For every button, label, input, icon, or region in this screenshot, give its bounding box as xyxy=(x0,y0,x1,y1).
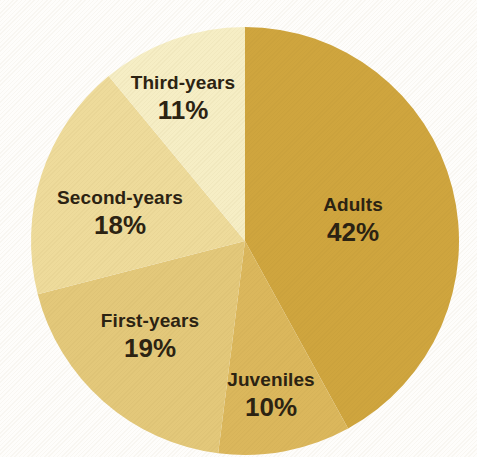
pie-chart: Adults42%Juveniles10%First-years19%Secon… xyxy=(0,0,477,457)
pie-chart-canvas xyxy=(0,0,477,457)
pie-slices xyxy=(31,27,459,455)
